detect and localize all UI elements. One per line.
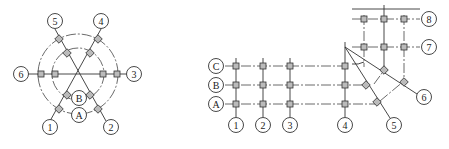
col-label-6: 6 <box>417 90 432 105</box>
axis-label-3: 3 <box>127 67 142 82</box>
svg-text:6: 6 <box>19 69 24 80</box>
radial-grid-figure: 5 4 6 3 B A 1 2 <box>14 14 142 135</box>
svg-text:4: 4 <box>99 16 104 27</box>
row-label-C: C <box>209 59 224 74</box>
svg-text:8: 8 <box>427 14 432 25</box>
svg-text:1: 1 <box>234 120 239 131</box>
row-label-B: B <box>209 78 224 93</box>
svg-text:C: C <box>213 61 220 72</box>
axis-label-5: 5 <box>48 14 63 29</box>
svg-text:5: 5 <box>392 120 397 131</box>
svg-text:4: 4 <box>343 120 348 131</box>
col-label-5: 5 <box>387 118 402 133</box>
svg-text:6: 6 <box>422 92 427 103</box>
svg-text:B: B <box>213 80 220 91</box>
orthogonal-grid-figure: C B A 1 2 3 4 5 6 7 8 <box>209 5 437 133</box>
svg-text:B: B <box>76 93 83 104</box>
axis-label-1: 1 <box>43 120 58 135</box>
svg-text:A: A <box>75 110 83 121</box>
row-label-7: 7 <box>422 40 437 55</box>
axis-label-B: B <box>72 91 87 106</box>
svg-text:7: 7 <box>427 42 432 53</box>
row-label-A: A <box>209 97 224 112</box>
svg-text:5: 5 <box>53 16 58 27</box>
axis-label-2: 2 <box>104 120 119 135</box>
svg-text:2: 2 <box>109 122 114 133</box>
grid-axes-diagram: 5 4 6 3 B A 1 2 <box>0 0 449 149</box>
svg-text:2: 2 <box>261 120 266 131</box>
grid-nodes-right <box>233 16 408 107</box>
row-label-8: 8 <box>422 12 437 27</box>
svg-text:1: 1 <box>48 122 53 133</box>
axis-label-4: 4 <box>94 14 109 29</box>
svg-text:3: 3 <box>288 120 293 131</box>
col-label-3: 3 <box>283 118 298 133</box>
col-label-1: 1 <box>229 118 244 133</box>
col-label-4: 4 <box>338 118 353 133</box>
axis-label-A: A <box>72 108 87 123</box>
col-label-2: 2 <box>256 118 271 133</box>
svg-text:A: A <box>212 99 220 110</box>
axis-label-6: 6 <box>14 67 29 82</box>
svg-text:3: 3 <box>132 69 137 80</box>
